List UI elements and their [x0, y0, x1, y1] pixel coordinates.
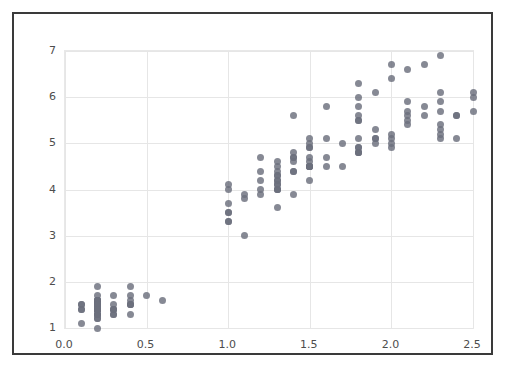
- scatter-point: [372, 126, 379, 133]
- scatter-point: [355, 94, 362, 101]
- scatter-point: [421, 103, 428, 110]
- scatter-point: [127, 301, 134, 308]
- y-tick-label: 2: [38, 275, 56, 286]
- scatter-point: [421, 61, 428, 68]
- scatter-point: [323, 154, 330, 161]
- scatter-point: [94, 283, 101, 290]
- scatter-point: [421, 112, 428, 119]
- scatter-point: [257, 168, 264, 175]
- scatter-point: [159, 297, 166, 304]
- scatter-point: [225, 218, 232, 225]
- x-tick-label: 1.0: [218, 339, 236, 350]
- scatter-point: [355, 103, 362, 110]
- x-tick-label: 1.5: [300, 339, 318, 350]
- gridline-horizontal: [65, 236, 473, 237]
- y-tick-label: 7: [38, 45, 56, 56]
- scatter-point: [404, 121, 411, 128]
- scatter-point: [339, 140, 346, 147]
- scatter-point: [323, 103, 330, 110]
- scatter-point: [127, 283, 134, 290]
- scatter-point: [110, 292, 117, 299]
- gridline-horizontal: [65, 143, 473, 144]
- scatter-point: [127, 311, 134, 318]
- scatter-point: [453, 135, 460, 142]
- scatter-point: [470, 89, 477, 96]
- scatter-point: [257, 154, 264, 161]
- scatter-point: [437, 131, 444, 138]
- x-tick-label: 2.5: [463, 339, 481, 350]
- scatter-point: [78, 306, 85, 313]
- scatter-point: [290, 191, 297, 198]
- y-tick-label: 1: [38, 322, 56, 333]
- scatter-point: [388, 75, 395, 82]
- scatter-point: [94, 325, 101, 332]
- scatter-point: [290, 158, 297, 165]
- scatter-point: [290, 149, 297, 156]
- y-tick-label: 6: [38, 91, 56, 102]
- scatter-point: [257, 177, 264, 184]
- figure-frame-border: 0.00.51.01.52.02.5 1234567: [12, 12, 493, 355]
- figure-canvas: 0.00.51.01.52.02.5 1234567: [0, 0, 509, 371]
- scatter-point: [372, 89, 379, 96]
- scatter-point: [355, 149, 362, 156]
- scatter-point: [78, 320, 85, 327]
- scatter-point: [306, 163, 313, 170]
- scatter-point: [241, 232, 248, 239]
- gridline-horizontal: [65, 282, 473, 283]
- scatter-point: [274, 204, 281, 211]
- scatter-point: [355, 135, 362, 142]
- scatter-point: [241, 195, 248, 202]
- y-tick-label: 4: [38, 183, 56, 194]
- scatter-point: [225, 200, 232, 207]
- scatter-point: [404, 98, 411, 105]
- scatter-point: [437, 98, 444, 105]
- scatter-plot-axes: [64, 50, 474, 329]
- scatter-point: [437, 89, 444, 96]
- scatter-point: [290, 168, 297, 175]
- scatter-point: [470, 108, 477, 115]
- gridline-horizontal: [65, 97, 473, 98]
- scatter-point: [290, 112, 297, 119]
- scatter-point: [274, 172, 281, 179]
- scatter-point: [388, 131, 395, 138]
- x-tick-label: 2.0: [382, 339, 400, 350]
- gridline-horizontal: [65, 328, 473, 329]
- scatter-point: [274, 158, 281, 165]
- scatter-point: [306, 154, 313, 161]
- scatter-point: [143, 292, 150, 299]
- scatter-point: [404, 66, 411, 73]
- scatter-point: [339, 163, 346, 170]
- scatter-point: [323, 163, 330, 170]
- y-tick-label: 3: [38, 229, 56, 240]
- scatter-point: [437, 108, 444, 115]
- y-tick-label: 5: [38, 137, 56, 148]
- x-tick-label: 0.0: [55, 339, 73, 350]
- gridline-horizontal: [65, 51, 473, 52]
- scatter-point: [306, 177, 313, 184]
- scatter-point: [453, 112, 460, 119]
- scatter-point: [388, 144, 395, 151]
- scatter-point: [355, 80, 362, 87]
- scatter-point: [388, 61, 395, 68]
- gridline-horizontal: [65, 190, 473, 191]
- scatter-point: [225, 209, 232, 216]
- scatter-point: [372, 140, 379, 147]
- scatter-point: [355, 117, 362, 124]
- scatter-point: [323, 135, 330, 142]
- scatter-point: [437, 52, 444, 59]
- x-tick-label: 0.5: [137, 339, 155, 350]
